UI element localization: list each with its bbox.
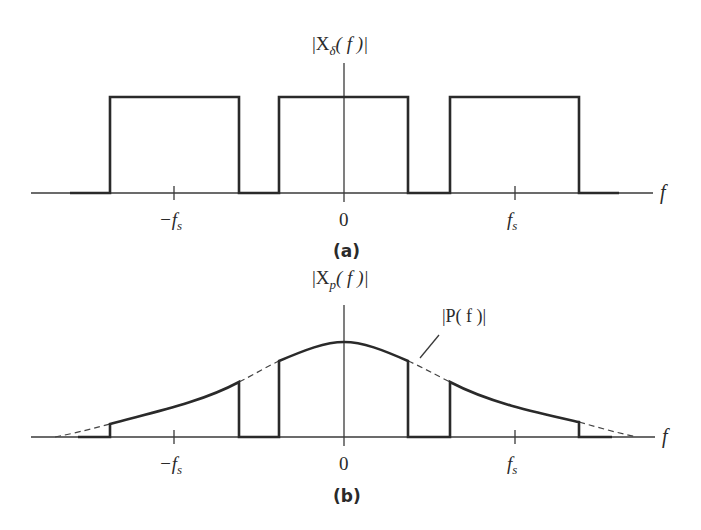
x-axis-label-b: f — [662, 425, 670, 448]
envelope-label: |P( f )| — [442, 306, 486, 327]
sampling-spectrum-diagram: |Xδ( f )| f −fs 0 fs (a) |P( f )| — [0, 0, 701, 530]
tick-label-zero-a: 0 — [339, 209, 349, 230]
tick-label-pos-fs-a: fs — [507, 209, 517, 233]
x-axis-label-a: f — [660, 181, 668, 204]
tick-label-zero-b: 0 — [339, 453, 349, 474]
spectrum-trace-b — [78, 342, 612, 437]
figure-b: |P( f )| |Xp( f )| f −fs 0 fs (b) — [31, 267, 670, 506]
y-axis-label-b: |Xp( f )| — [312, 267, 369, 292]
envelope-leader-line — [420, 335, 439, 358]
caption-b: (b) — [333, 486, 361, 506]
tick-label-pos-fs-b: fs — [507, 453, 517, 477]
tick-label-neg-fs-a: −fs — [159, 209, 182, 233]
tick-label-neg-fs-b: −fs — [159, 453, 182, 477]
figure-a: |Xδ( f )| f −fs 0 fs (a) — [31, 33, 668, 261]
caption-a: (a) — [333, 241, 360, 261]
envelope-curve-p — [55, 361, 637, 437]
y-axis-label-a: |Xδ( f )| — [312, 33, 368, 58]
